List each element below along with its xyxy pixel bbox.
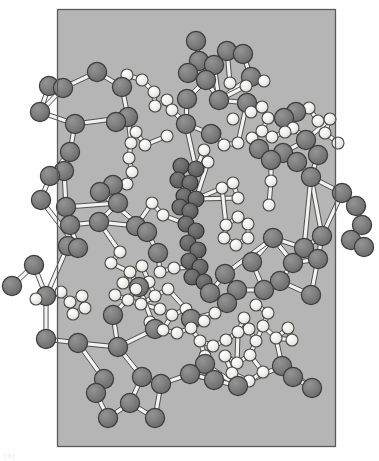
atom-light <box>130 283 142 295</box>
atom-heavy <box>68 238 87 257</box>
atom-light <box>149 290 161 302</box>
atom-heavy <box>68 333 87 352</box>
atom-light <box>238 312 250 324</box>
atom-light <box>227 177 239 189</box>
atom-light <box>224 77 236 89</box>
figure-canvas: (a) <box>0 0 379 461</box>
atom-heavy <box>254 280 273 299</box>
atom-light <box>114 246 126 258</box>
atom-light <box>242 232 254 244</box>
molecule-svg <box>0 0 379 461</box>
atom-heavy <box>103 305 122 324</box>
atom-light <box>270 332 282 344</box>
atom-light <box>244 349 256 361</box>
atom-heavy <box>346 196 365 215</box>
atom-light <box>148 86 160 98</box>
atom-light <box>162 283 174 295</box>
atom-light <box>117 277 129 289</box>
atom-heavy <box>106 112 125 131</box>
atom-heavy <box>180 364 199 383</box>
bond <box>235 335 240 360</box>
atom-light <box>166 104 178 116</box>
atom-heavy <box>283 367 302 386</box>
atom-heavy <box>148 243 167 262</box>
atom-light <box>266 131 278 143</box>
atom-light <box>230 239 242 251</box>
atom-light <box>135 298 147 310</box>
atom-heavy <box>31 190 50 209</box>
atom-heavy <box>108 193 127 212</box>
atom-light <box>232 137 244 149</box>
atom-light <box>198 315 210 327</box>
atom-light <box>161 130 173 142</box>
atom-heavy <box>228 376 247 395</box>
atom-heavy <box>89 212 108 231</box>
atom-light <box>168 262 180 274</box>
atom-light <box>154 303 166 315</box>
atom-light <box>256 101 268 113</box>
atom-heavy <box>53 78 72 97</box>
atom-light <box>279 126 291 138</box>
atom-heavy <box>56 197 75 216</box>
atom-dark <box>173 158 189 174</box>
atom-light <box>258 75 270 87</box>
atom-light <box>146 197 158 209</box>
atom-heavy <box>177 89 196 108</box>
atom-light <box>218 139 230 151</box>
atom-light <box>227 113 239 125</box>
atom-light <box>109 289 121 301</box>
atom-light <box>64 296 76 308</box>
atom-light <box>220 334 232 346</box>
atom-heavy <box>354 237 373 256</box>
atom-light <box>319 127 331 139</box>
atom-light <box>312 115 324 127</box>
atom-heavy <box>151 374 170 393</box>
atom-light <box>124 266 136 278</box>
atom-light <box>67 308 79 320</box>
atom-heavy <box>132 367 151 386</box>
atom-heavy <box>112 77 131 96</box>
atom-light <box>79 302 91 314</box>
atom-light <box>185 322 197 334</box>
atom-light <box>194 335 206 347</box>
atom-light <box>332 137 344 149</box>
atom-light <box>262 112 274 124</box>
atom-light <box>207 340 219 352</box>
atom-light <box>157 324 169 336</box>
atom-light <box>286 334 298 346</box>
atom-heavy <box>215 264 234 283</box>
atom-heavy <box>36 329 55 348</box>
atom-light <box>136 260 148 272</box>
atom-heavy <box>302 378 321 397</box>
atom-heavy <box>86 383 105 402</box>
atom-light <box>166 309 178 321</box>
atom-light <box>262 307 274 319</box>
atom-light <box>55 286 67 298</box>
atom-light <box>245 106 257 118</box>
atom-light <box>219 350 231 362</box>
atom-heavy <box>200 283 219 302</box>
atom-heavy <box>201 124 220 143</box>
atom-light <box>250 335 262 347</box>
atom-light <box>171 327 183 339</box>
atom-light <box>136 74 148 86</box>
atom-light <box>122 294 134 306</box>
atom-heavy <box>120 393 139 412</box>
atom-light <box>157 209 169 221</box>
atom-light <box>76 290 88 302</box>
atom-light <box>232 326 244 338</box>
atom-light <box>240 80 252 92</box>
atom-heavy <box>233 44 252 63</box>
atom-heavy <box>308 145 327 164</box>
atom-heavy <box>108 337 127 356</box>
atom-heavy <box>2 276 21 295</box>
atom-light <box>218 232 230 244</box>
atom-heavy <box>209 90 228 109</box>
atom-light <box>123 152 135 164</box>
atom-light <box>243 323 255 335</box>
atom-heavy <box>186 31 205 50</box>
atom-light <box>324 113 336 125</box>
atom-light <box>30 293 42 305</box>
atom-heavy <box>308 249 327 268</box>
atom-heavy <box>65 114 84 133</box>
